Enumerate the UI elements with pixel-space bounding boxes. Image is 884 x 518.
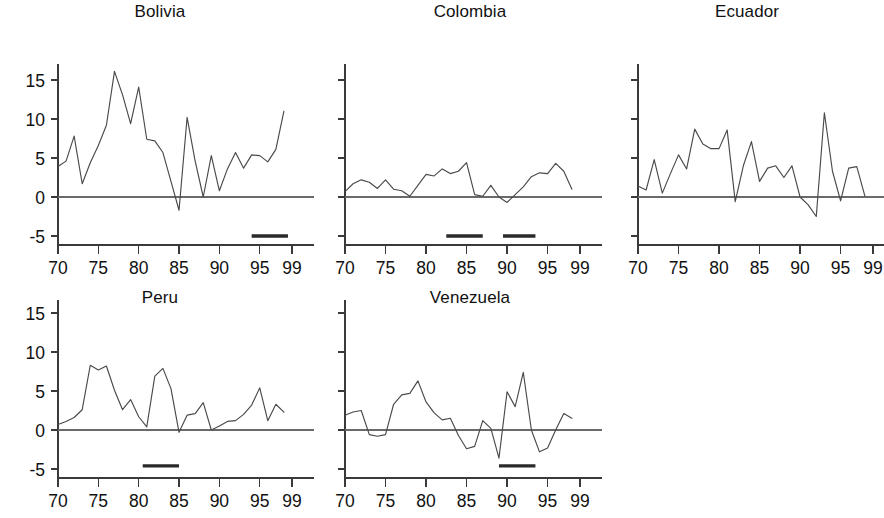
plot-area: -505101570758085909599 [0,288,320,518]
x-tick-label: 90 [790,258,810,278]
x-tick-label: 90 [210,491,230,511]
series-line [58,365,284,432]
x-tick-label: 85 [457,258,476,278]
y-tick-label: 5 [35,382,45,402]
x-tick-label: 85 [457,491,476,511]
x-tick-label: 70 [628,258,648,278]
x-tick-label: 70 [48,258,68,278]
x-tick-label: 75 [89,491,108,511]
x-tick-label: 99 [282,491,301,511]
y-tick-label: 10 [26,343,46,363]
panel-peru: Peru-505101570758085909599 [0,288,320,518]
y-tick-label: 15 [26,71,45,91]
x-tick-label: 95 [538,258,557,278]
panel-title: Ecuador [610,2,884,22]
x-tick-label: 85 [750,258,769,278]
series-line [58,71,284,210]
plot-area: -505101570758085909599 [0,2,320,277]
x-tick-label: 90 [210,258,230,278]
x-tick-label: 90 [497,258,517,278]
panel-colombia: Colombia70758085909599 [320,2,620,277]
panel-ecuador: Ecuador70758085909599 [610,2,884,277]
x-tick-label: 95 [250,258,269,278]
x-tick-label: 80 [709,258,729,278]
panel-bolivia: Bolivia-505101570758085909599 [0,2,320,277]
x-tick-label: 85 [169,258,188,278]
panel-title: Peru [0,288,320,308]
x-tick-label: 99 [570,491,589,511]
x-tick-label: 70 [335,491,355,511]
x-tick-label: 75 [89,258,108,278]
y-tick-label: 10 [26,110,46,130]
plot-area: 70758085909599 [320,288,620,518]
x-tick-label: 80 [416,258,436,278]
x-tick-label: 99 [282,258,301,278]
y-tick-label: 0 [35,188,45,208]
x-tick-label: 95 [831,258,850,278]
small-multiples-figure: Bolivia-505101570758085909599Colombia707… [0,0,884,518]
x-tick-label: 80 [416,491,436,511]
panel-title: Bolivia [0,2,320,22]
panel-venezuela: Venezuela70758085909599 [320,288,620,518]
y-tick-label: 5 [35,149,45,169]
x-tick-label: 99 [570,258,589,278]
x-tick-label: 70 [335,258,355,278]
y-tick-label: 0 [35,421,45,441]
x-tick-label: 95 [538,491,557,511]
x-tick-label: 85 [169,491,188,511]
series-line [345,372,572,458]
panel-title: Venezuela [320,288,620,308]
series-line [638,113,865,217]
panel-title: Colombia [320,2,620,22]
x-tick-label: 80 [129,258,149,278]
x-tick-label: 70 [48,491,68,511]
x-tick-label: 99 [863,258,882,278]
x-tick-label: 75 [669,258,688,278]
x-tick-label: 95 [250,491,269,511]
x-tick-label: 90 [497,491,517,511]
x-tick-label: 75 [376,258,395,278]
y-tick-label: -5 [29,227,45,247]
y-tick-label: -5 [29,460,45,480]
plot-area: 70758085909599 [610,2,884,277]
x-tick-label: 80 [129,491,149,511]
x-tick-label: 75 [376,491,395,511]
plot-area: 70758085909599 [320,2,620,277]
